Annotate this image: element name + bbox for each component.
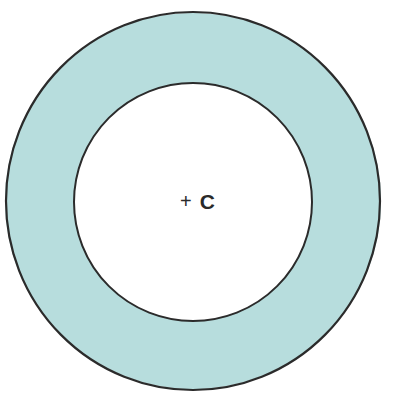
- center-point-label: C: [200, 191, 215, 212]
- center-point-marker: +: [180, 191, 192, 211]
- center-label: + C: [180, 186, 240, 216]
